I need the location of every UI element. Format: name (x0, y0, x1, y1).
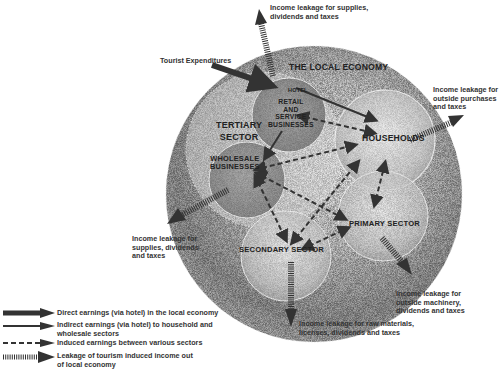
dashed-arrow-icon (0, 339, 56, 349)
tertiary-sector-label: TERTIARY SECTOR (216, 119, 262, 143)
leakage-bottom-label: Income leakage for raw materials, licens… (299, 320, 414, 337)
tourist-expenditures-label: Tourist Expenditures (160, 57, 231, 66)
hotel-label: HOTEL (288, 86, 308, 95)
retail-label: RETAIL AND SERVICE BUSINESSES (268, 98, 314, 128)
tourism-economy-diagram: Income leakage for supplies, dividends a… (0, 0, 504, 376)
thick-arrow-icon (0, 309, 56, 319)
secondary-sector-label: SECONDARY SECTOR (239, 245, 324, 254)
legend-item-induced: Induced earnings between various sectors (0, 339, 277, 349)
households-label: HOUSEHOLDS (362, 134, 425, 143)
leakage-right-label: Income leakage for outside purchases and… (433, 86, 498, 112)
thin-arrow-icon (0, 321, 56, 331)
wholesale-label: WHOLESALE BUSINESSES (210, 155, 260, 172)
legend-item-indirect: Indirect earnings (via hotel) to househo… (0, 321, 247, 338)
hatched-arrow-icon (0, 352, 56, 362)
primary-sector-label: PRIMARY SECTOR (349, 219, 420, 228)
legend-item-leakage: Leakage of tourism induced income out of… (0, 352, 197, 369)
local-economy-title: THE LOCAL ECONOMY (289, 63, 388, 72)
leakage-top-label: Income leakage for supplies, dividends a… (270, 4, 368, 21)
leakage-bottom-right-label: Income leakage for outside machinery, di… (396, 290, 465, 316)
legend-item-direct: Direct earnings (via hotel) in the local… (0, 309, 277, 319)
leakage-left-label: Income leakage for supplies, dividends a… (132, 235, 199, 261)
